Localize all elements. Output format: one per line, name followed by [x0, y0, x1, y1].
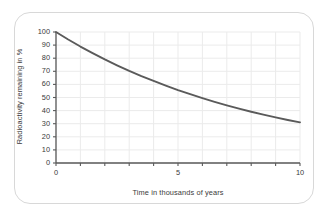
grid-lines: [56, 32, 300, 163]
decay-chart: Radioactivity remaining in % Time in tho…: [0, 0, 329, 218]
plot-canvas: [0, 0, 329, 218]
